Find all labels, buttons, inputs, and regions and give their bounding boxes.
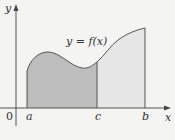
y-axis-label: y [4,2,12,15]
region-a-to-c [27,52,97,108]
x-axis-arrow-icon [164,106,171,111]
origin-label: 0 [6,110,13,123]
point-a-label: a [26,110,33,123]
y-axis-arrow-icon [14,4,19,11]
x-axis-label: x [165,111,172,124]
integral-diagram: y x 0 a c b y = f(x) [0,0,175,140]
curve-label: y = f(x) [65,35,107,48]
point-b-label: b [142,110,149,123]
point-c-label: c [95,110,101,123]
